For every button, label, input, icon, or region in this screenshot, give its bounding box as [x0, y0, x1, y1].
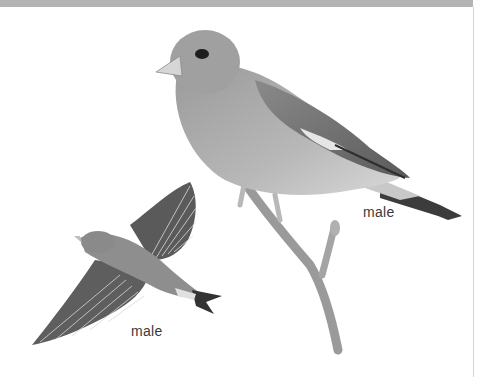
- perched-bird-label: male: [363, 204, 395, 220]
- flying-bird-label: male: [131, 323, 163, 339]
- flying-bird: [32, 182, 222, 345]
- bird-illustration: [0, 0, 490, 377]
- branch: [240, 175, 340, 350]
- perched-bird: [156, 30, 462, 220]
